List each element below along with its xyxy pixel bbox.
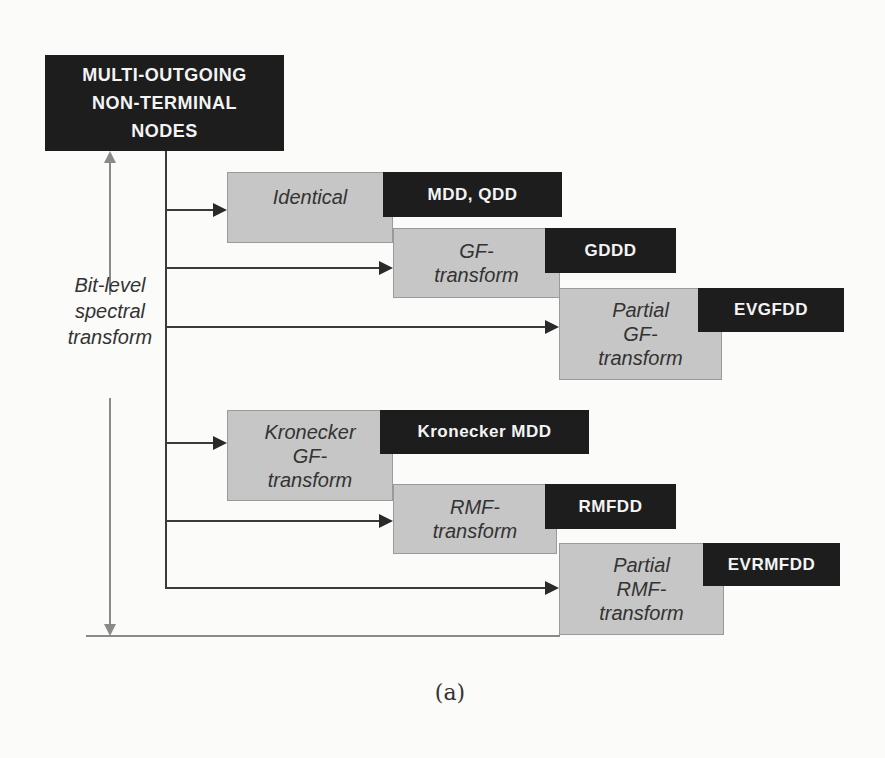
transform-box-identical: Identical	[227, 172, 393, 243]
connector-arrow-rmf	[166, 520, 380, 522]
diagram-type-gddd: GDDD	[545, 228, 676, 273]
transform-box-gf: GF- transform	[393, 228, 560, 298]
arrow-head-icon	[379, 514, 393, 528]
diagram-type-evgfdd: EVGFDD	[698, 288, 844, 332]
axis-arrow-up-head-icon	[104, 151, 116, 163]
side-label-line: spectral	[40, 298, 180, 324]
transform-label: GF-	[293, 444, 327, 468]
transform-box-rmf: RMF- transform	[393, 484, 557, 554]
connector-arrow-kronecker-gf	[166, 442, 214, 444]
side-label-line: transform	[40, 324, 180, 350]
diagram-type-kronecker-mdd: Kronecker MDD	[380, 410, 589, 454]
diagram-type-label: GDDD	[584, 241, 636, 261]
connector-arrow-identical	[166, 209, 214, 211]
side-label-bit-level-spectral-transform: Bit-level spectral transform	[40, 272, 180, 350]
transform-label: Partial	[613, 553, 670, 577]
root-node-line: NODES	[131, 117, 198, 145]
diagram-type-evrmfdd: EVRMFDD	[703, 543, 840, 586]
transform-label: GF-	[459, 239, 493, 263]
figure-caption: (a)	[420, 680, 480, 705]
transform-label: RMF-	[450, 495, 500, 519]
side-label-line: Bit-level	[40, 272, 180, 298]
diagram-type-label: MDD, QDD	[428, 185, 518, 205]
transform-label: transform	[433, 519, 517, 543]
connector-arrow-partial-gf	[166, 326, 546, 328]
arrow-head-icon	[213, 203, 227, 217]
baseline	[86, 635, 560, 637]
connector-arrow-gf	[166, 267, 380, 269]
arrow-head-icon	[379, 261, 393, 275]
axis-arrow-bottom-segment	[109, 398, 111, 626]
arrow-head-icon	[213, 436, 227, 450]
transform-label: Identical	[273, 185, 348, 209]
diagram-type-label: RMFDD	[579, 497, 643, 517]
transform-label: transform	[599, 601, 683, 625]
root-node-line: MULTI-OUTGOING	[82, 61, 247, 89]
connector-arrow-partial-rmf	[166, 587, 546, 589]
diagram-type-mdd-qdd: MDD, QDD	[383, 172, 562, 217]
transform-label: Partial	[612, 298, 669, 322]
diagram-type-label: EVGFDD	[734, 300, 808, 320]
diagram-type-label: EVRMFDD	[728, 555, 816, 575]
transform-label: transform	[268, 468, 352, 492]
transform-label: RMF-	[617, 577, 667, 601]
transform-label: transform	[434, 263, 518, 287]
diagram-type-label: Kronecker MDD	[417, 422, 551, 442]
diagram-type-rmfdd: RMFDD	[545, 484, 676, 529]
root-node-line: NON-TERMINAL	[92, 89, 237, 117]
transform-box-partial-rmf: Partial RMF- transform	[559, 543, 724, 635]
transform-label: Kronecker	[264, 420, 355, 444]
transform-label: GF-	[623, 322, 657, 346]
root-node-multi-outgoing-non-terminal-nodes: MULTI-OUTGOING NON-TERMINAL NODES	[45, 55, 284, 151]
arrow-head-icon	[545, 581, 559, 595]
main-connector-vertical	[165, 151, 167, 589]
transform-box-kronecker-gf: Kronecker GF- transform	[227, 410, 393, 501]
transform-label: transform	[598, 346, 682, 370]
arrow-head-icon	[545, 320, 559, 334]
